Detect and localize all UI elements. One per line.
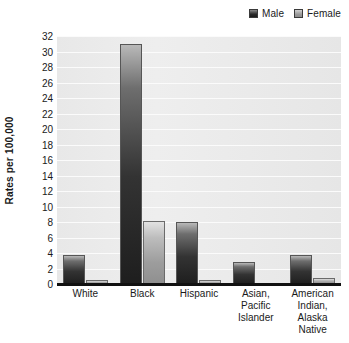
x-axis-label-line: White	[58, 288, 113, 300]
x-axis-line	[57, 283, 341, 286]
bar-male[interactable]	[233, 262, 255, 284]
legend-entry-female: Female	[294, 8, 341, 19]
x-axis-label-line: American	[285, 288, 340, 300]
y-axis-tick-label: 14	[19, 170, 53, 181]
y-axis-tick-label: 12	[19, 186, 53, 197]
bar-group	[171, 36, 228, 284]
y-axis-title-text: Rates per 100,000	[5, 116, 16, 204]
legend-label-female: Female	[307, 8, 341, 19]
y-axis-tick-label: 24	[19, 93, 53, 104]
x-axis-label-line: Islander	[228, 312, 283, 324]
y-axis-tick-label: 0	[19, 279, 53, 290]
y-axis-tick-label: 26	[19, 77, 53, 88]
legend-swatch-male-icon	[249, 9, 258, 18]
y-axis-tick-label: 28	[19, 62, 53, 73]
bar-male[interactable]	[63, 255, 85, 284]
x-axis-category-label: AmericanIndian,Alaska Native	[284, 288, 341, 336]
y-axis-tick-label: 4	[19, 248, 53, 259]
x-axis-category-label: Hispanic	[171, 288, 228, 336]
x-axis-label-line: Black	[115, 288, 170, 300]
bar-male[interactable]	[120, 44, 142, 284]
y-axis-tick-label: 8	[19, 217, 53, 228]
y-axis-tick-label: 20	[19, 124, 53, 135]
bar-group	[227, 36, 284, 284]
bar-group	[114, 36, 171, 284]
x-axis-label-line: Asian,	[228, 288, 283, 300]
bar-groups	[57, 36, 341, 284]
x-axis-label-line: Pacific	[228, 300, 283, 312]
y-axis-tick-label: 2	[19, 263, 53, 274]
y-axis-tick-label: 10	[19, 201, 53, 212]
chart-plot-area: 02468101214161820222426283032	[57, 36, 341, 284]
bar-female[interactable]	[143, 221, 165, 284]
bar-male[interactable]	[290, 255, 312, 284]
bar-group	[284, 36, 341, 284]
x-axis-label-line: Hispanic	[172, 288, 227, 300]
x-axis-label-line: Indian,	[285, 300, 340, 312]
legend-entry-male: Male	[249, 8, 284, 19]
y-axis-tick-label: 6	[19, 232, 53, 243]
bar-group	[57, 36, 114, 284]
y-axis-tick-label: 32	[19, 31, 53, 42]
legend-swatch-female-icon	[294, 9, 303, 18]
chart-legend: Male Female	[249, 8, 341, 19]
x-axis-category-label: Asian,PacificIslander	[227, 288, 284, 336]
bar-male[interactable]	[176, 222, 198, 284]
y-axis-tick-label: 22	[19, 108, 53, 119]
x-axis-category-label: White	[57, 288, 114, 336]
y-axis-tick-label: 18	[19, 139, 53, 150]
y-axis-title: Rates per 100,000	[2, 36, 18, 284]
x-axis-labels: WhiteBlackHispanicAsian,PacificIslanderA…	[57, 288, 341, 336]
x-axis-category-label: Black	[114, 288, 171, 336]
y-axis-tick-label: 30	[19, 46, 53, 57]
y-axis-tick-label: 16	[19, 155, 53, 166]
legend-label-male: Male	[262, 8, 284, 19]
x-axis-label-line: Alaska Native	[285, 312, 340, 336]
